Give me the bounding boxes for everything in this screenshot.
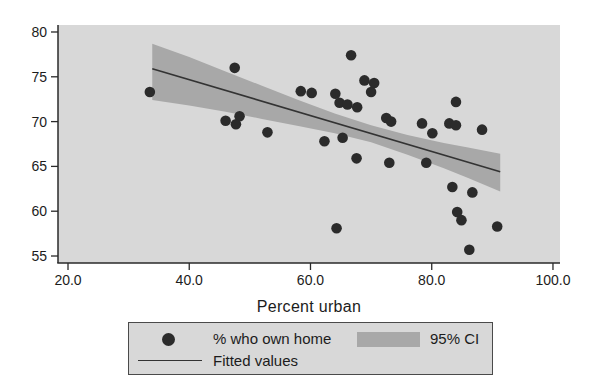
ci-band-swatch-icon	[357, 332, 420, 347]
x-tick-label: 60.0	[297, 272, 324, 288]
data-point	[352, 102, 363, 113]
data-point	[319, 136, 330, 147]
data-point	[366, 87, 377, 98]
y-tick-label: 80	[31, 24, 47, 40]
data-point	[346, 50, 357, 61]
data-point	[421, 158, 432, 169]
data-point	[351, 153, 362, 164]
data-point	[220, 115, 231, 126]
legend-label-ci: 95% CI	[430, 330, 479, 347]
legend-label-fit: Fitted values	[213, 352, 298, 369]
y-tick-label: 70	[31, 114, 47, 130]
y-tick-label: 60	[31, 203, 47, 219]
plot-area-bg	[58, 25, 560, 263]
data-point	[262, 127, 273, 138]
data-point	[306, 88, 317, 99]
data-point	[427, 128, 438, 139]
data-point	[477, 124, 488, 135]
data-point	[456, 215, 467, 226]
data-point	[386, 116, 397, 127]
x-tick-label: 20.0	[54, 272, 81, 288]
x-tick-label: 40.0	[176, 272, 203, 288]
data-point	[447, 182, 458, 193]
data-point	[492, 221, 503, 232]
legend-box: % who own home 95% CI Fitted values	[128, 322, 493, 375]
legend-label-scatter: % who own home	[213, 330, 331, 347]
data-point	[145, 87, 156, 98]
scatter-chart: 55606570758020.040.060.080.0100.0 Percen…	[0, 0, 600, 320]
data-point	[337, 132, 348, 143]
data-point	[467, 187, 478, 198]
data-point	[464, 244, 475, 255]
data-point	[384, 158, 395, 169]
x-axis-title: Percent urban	[58, 298, 560, 316]
y-tick-label: 65	[31, 158, 47, 174]
data-point	[229, 63, 240, 74]
scatter-marker-icon	[162, 333, 175, 346]
figure-page: 55606570758020.040.060.080.0100.0 Percen…	[0, 0, 600, 389]
y-tick-label: 75	[31, 69, 47, 85]
plot-svg: 55606570758020.040.060.080.0100.0	[0, 0, 600, 300]
y-tick-label: 55	[31, 248, 47, 264]
data-point	[331, 223, 342, 234]
data-point	[417, 118, 428, 129]
data-point	[342, 99, 353, 110]
data-point	[359, 75, 370, 86]
fitted-line-icon	[138, 360, 202, 361]
data-point	[451, 97, 462, 108]
x-tick-label: 80.0	[418, 272, 445, 288]
data-point	[295, 86, 306, 97]
data-point	[451, 120, 462, 131]
x-tick-label: 100.0	[535, 272, 570, 288]
data-point	[231, 119, 242, 130]
